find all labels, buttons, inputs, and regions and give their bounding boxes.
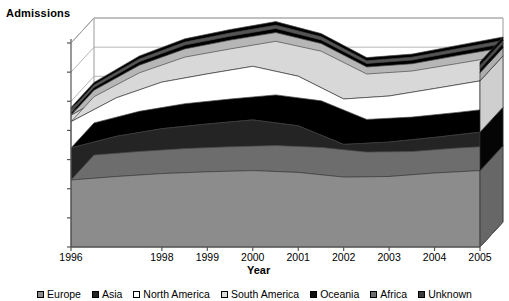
legend-label: Oceania <box>320 288 359 300</box>
legend-item[interactable]: Europe <box>37 288 81 300</box>
legend-item[interactable]: Asia <box>92 288 122 300</box>
y-axis-depth-line <box>71 18 94 43</box>
legend-label: Europe <box>47 288 81 300</box>
africa-swatch <box>370 291 377 298</box>
x-tick-label: 2004 <box>415 251 455 263</box>
legend-label: North America <box>143 288 210 300</box>
asia-swatch <box>92 291 99 298</box>
x-tick-label: 2000 <box>233 251 273 263</box>
legend-item[interactable]: North America <box>133 288 210 300</box>
legend-item[interactable]: Unknown <box>418 288 472 300</box>
x-tick-label: 2002 <box>324 251 364 263</box>
south-america-swatch <box>221 291 228 298</box>
series-band-europe <box>71 171 480 247</box>
legend-item[interactable]: Oceania <box>310 288 359 300</box>
legend-item[interactable]: South America <box>221 288 299 300</box>
chart-legend: EuropeAsiaNorth AmericaSouth AmericaOcea… <box>0 288 509 301</box>
legend-item[interactable]: Africa <box>370 288 407 300</box>
legend-label: South America <box>231 288 299 300</box>
x-tick-label: 2001 <box>278 251 318 263</box>
x-tick-label: 2003 <box>369 251 409 263</box>
x-tick-label: 2005 <box>460 251 500 263</box>
x-tick-label: 1998 <box>142 251 182 263</box>
legend-label: Africa <box>380 288 407 300</box>
x-tick-label: 1996 <box>51 251 91 263</box>
unknown-swatch <box>418 291 425 298</box>
north-america-swatch <box>133 291 140 298</box>
legend-label: Asia <box>102 288 122 300</box>
x-tick-label: 1999 <box>187 251 227 263</box>
oceania-swatch <box>310 291 317 298</box>
legend-label: Unknown <box>428 288 472 300</box>
europe-swatch <box>37 291 44 298</box>
chart-container: Admissions Year 35,000,00030,000,00025,0… <box>0 0 509 301</box>
gridline-depth <box>71 47 94 72</box>
